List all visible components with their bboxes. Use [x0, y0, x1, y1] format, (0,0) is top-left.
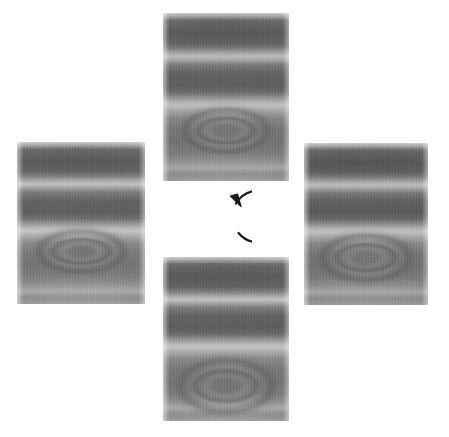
figure-caption	[0, 0, 1, 1]
clockwise-rotation-arrow-icon	[186, 187, 252, 253]
micrograph-panel-top[interactable]: Grayscale micrograph with horizontal int…	[163, 13, 289, 181]
panel-edge-fade	[17, 142, 145, 304]
micrograph-panel-left[interactable]: Grayscale micrograph with horizontal int…	[17, 142, 145, 304]
panel-edge-fade	[163, 13, 289, 181]
panel-edge-fade	[163, 257, 289, 421]
figure-title: Rotation series of interference-fringe m…	[0, 21, 1, 22]
micrograph-panel-right[interactable]: Grayscale micrograph with horizontal int…	[304, 143, 428, 305]
micrograph-panel-bottom[interactable]: Grayscale micrograph with horizontal int…	[163, 257, 289, 421]
panel-edge-fade	[304, 143, 428, 305]
figure-root: Rotation series of interference-fringe m…	[0, 0, 449, 437]
